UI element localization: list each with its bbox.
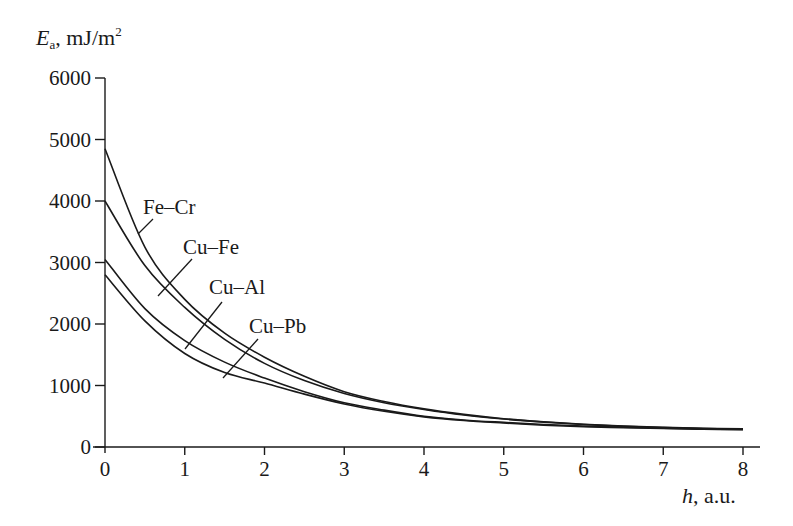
y-tick-label: 6000	[49, 66, 91, 90]
leader-line-cu-al	[185, 302, 222, 349]
curve-label-cu-fe: Cu–Fe	[183, 235, 239, 259]
curve-label-cu-pb: Cu–Pb	[249, 314, 306, 338]
x-tick-label: 5	[499, 457, 510, 481]
leader-line-cu-pb	[223, 339, 258, 378]
leader-line-cu-fe	[158, 259, 192, 296]
curve-cu-al	[105, 259, 743, 429]
x-tick-label: 8	[738, 457, 749, 481]
y-tick-label: 4000	[49, 189, 91, 213]
curve-cu-pb	[105, 275, 743, 430]
y-tick-label: 3000	[49, 251, 91, 275]
y-tick-label: 0	[81, 435, 92, 459]
curves	[105, 149, 743, 430]
y-tick-label: 2000	[49, 312, 91, 336]
curve-fe-cr	[105, 149, 743, 429]
x-tick-label: 2	[259, 457, 270, 481]
x-tick-label: 0	[100, 457, 111, 481]
curve-label-fe-cr: Fe–Cr	[143, 195, 196, 219]
leader-line-fe-cr	[138, 219, 153, 234]
y-tick-label: 1000	[49, 374, 91, 398]
x-tick-label: 6	[578, 457, 589, 481]
y-tick-label: 5000	[49, 128, 91, 152]
x-tick-label: 1	[180, 457, 191, 481]
adhesion-energy-chart: 0100020003000400050006000012345678 Fe–Cr…	[0, 0, 793, 526]
axes: 0100020003000400050006000012345678	[49, 66, 760, 481]
x-tick-label: 3	[339, 457, 350, 481]
x-tick-label: 7	[658, 457, 669, 481]
curve-label-cu-al: Cu–Al	[209, 275, 265, 299]
x-tick-label: 4	[419, 457, 430, 481]
